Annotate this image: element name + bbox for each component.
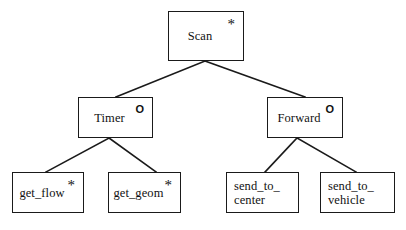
node-marker-star-get_flow: *: [68, 178, 76, 193]
node-label-timer: Timer: [79, 111, 140, 126]
edge-forward-send_to_center: [265, 138, 297, 172]
node-send_to_center[interactable]: send_to_ center: [226, 172, 299, 213]
node-label-forward: Forward: [268, 111, 330, 126]
node-marker-star-scan: *: [228, 17, 236, 32]
node-marker-circle-timer: O: [135, 104, 144, 115]
node-label-scan: Scan: [169, 29, 231, 44]
node-marker-star-get_geom: *: [165, 178, 173, 193]
node-scan[interactable]: Scan*: [168, 11, 244, 61]
edge-forward-send_to_vehicle: [297, 138, 356, 172]
node-label-send_to_vehicle: send_to_ vehicle: [328, 179, 374, 209]
hierarchy-diagram: Scan*TimerOForwardOget_flow*get_geom*sen…: [0, 0, 406, 230]
node-forward[interactable]: ForwardO: [267, 97, 343, 138]
node-get_geom[interactable]: get_geom*: [108, 172, 181, 213]
edge-timer-get_geom: [109, 138, 156, 172]
node-get_flow[interactable]: get_flow*: [12, 172, 84, 213]
edge-timer-get_flow: [46, 138, 109, 172]
edge-scan-forward: [205, 61, 305, 97]
node-marker-circle-forward: O: [325, 104, 334, 115]
node-label-get_geom: get_geom: [109, 186, 168, 201]
node-label-get_flow: get_flow: [13, 186, 71, 201]
node-send_to_vehicle[interactable]: send_to_ vehicle: [320, 172, 395, 213]
node-label-send_to_center: send_to_ center: [234, 179, 280, 209]
node-timer[interactable]: TimerO: [78, 97, 153, 138]
edge-scan-timer: [116, 61, 205, 97]
